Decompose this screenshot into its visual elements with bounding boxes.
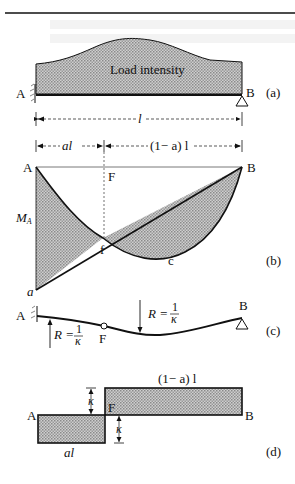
point-b-label: B [245, 408, 254, 423]
support-a-label: A [16, 308, 26, 323]
radius-right-label: R = [147, 306, 168, 321]
dim-al-label: al [62, 138, 73, 153]
frac-den: κ [75, 334, 81, 348]
radius-left-label: R = [53, 327, 74, 342]
top-length-label: (1− a) l [158, 371, 197, 386]
point-f-label: f [100, 242, 105, 257]
hinge-F-label: F [99, 331, 106, 346]
panel-d-tag: (d) [266, 444, 281, 459]
load-intensity-label: Load intensity [110, 62, 185, 77]
pin-support-icon [236, 319, 248, 329]
hinge-F [101, 323, 107, 329]
curvature-block-right [105, 388, 242, 415]
point-a-bottom-label: a [27, 284, 34, 299]
panel-d: κ κ A B F (1− a) l al (d) [27, 371, 281, 460]
kappa-top-label: κ [88, 394, 94, 408]
support-b-label: B [246, 85, 255, 100]
support-b-label: B [239, 298, 248, 313]
curvature-block-left [38, 415, 105, 443]
panel-a: Load intensity A B (a) l [16, 38, 280, 126]
point-a-label: A [23, 160, 33, 175]
panel-a-tag: (a) [266, 85, 280, 100]
span-label: l [138, 111, 142, 126]
moment-label: MA [15, 210, 32, 226]
point-F-label: F [108, 400, 115, 415]
beam-figure: Load intensity A B (a) l al (1− a) l [0, 0, 295, 484]
point-b-label: B [247, 160, 256, 175]
panel-c-tag: (c) [266, 323, 280, 338]
dim-1-a-l-label: (1− a) l [150, 138, 189, 153]
panel-b-tag: (b) [266, 253, 281, 268]
panel-c: A B F R = 1 κ R = 1 κ (c) [16, 298, 280, 348]
panel-b: al (1− a) l A B F f c a MA (b) [15, 138, 281, 299]
support-a-label: A [16, 86, 26, 101]
point-F-label: F [108, 169, 115, 184]
moment-area-right [103, 167, 242, 259]
frac-den: κ [171, 312, 177, 326]
moment-area-left [36, 167, 103, 290]
kappa-bottom-label: κ [116, 422, 122, 436]
point-a-label: A [27, 408, 37, 423]
bottom-length-label: al [64, 445, 75, 460]
curve-c-label: c [168, 253, 174, 268]
